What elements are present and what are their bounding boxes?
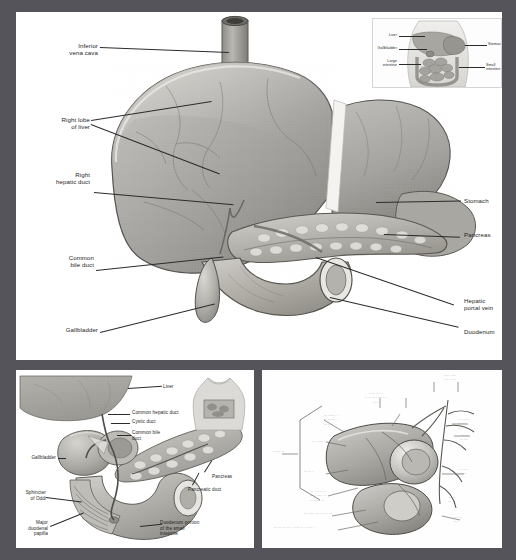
br-caption-top-center: ····· ···· · ····· ···· ···· ··· ···· · <box>348 392 404 405</box>
bl-label-cystic-duct: Cystic duct <box>132 419 192 425</box>
br-caption-mid-left-b: ······ · <box>304 470 338 474</box>
main-illustration-panel: Liver Gallbladder Large intestine Stomac… <box>16 12 502 360</box>
art-bl-liver <box>20 376 132 422</box>
br-caption-bottom-a: ········· ··· · ····· ··· <box>304 512 374 516</box>
label-right-hepatic-duct: Right hepatic duct <box>24 171 90 186</box>
bl-label-pancreas: Pancreas <box>212 474 254 480</box>
leader-inset-liver <box>399 36 425 37</box>
bl-label-major-duodenal-papilla: Major duodenal papilla <box>16 520 48 537</box>
inset-label-liver: Liver <box>373 33 397 37</box>
leader-bl-common-hepatic-duct <box>108 414 130 415</box>
leader-bl-cystic-duct <box>111 423 130 424</box>
label-gallbladder: Gallbladder <box>24 326 98 333</box>
bl-label-duodenum-portion: Duodenum portion of the small intestine <box>160 520 222 537</box>
br-caption-right-d: ······ ··· <box>448 496 478 505</box>
br-caption-right-a: · ········ ······ ···· <box>458 418 498 431</box>
leader-inset-small-intestine <box>459 67 485 68</box>
br-caption-bottom-b: ······ ······· · ······ ··· ·· ···· <box>274 526 366 530</box>
br-caption-top-right: ····· ····· ····· · ··· <box>420 374 480 383</box>
label-duodenum: Duodenum <box>464 328 502 335</box>
bl-label-common-hepatic-duct: Common hepatic duct <box>132 410 208 416</box>
leader-inset-stomach <box>465 45 487 46</box>
leader-inset-gallbladder <box>399 49 427 50</box>
anatomy-plate: Liver Gallbladder Large intestine Stomac… <box>0 0 516 560</box>
bl-label-liver: Liver <box>163 384 211 390</box>
bl-label-gallbladder: Gallbladder <box>18 455 56 461</box>
br-caption-upper-left: ·········· · ·········· · ····· · <box>324 414 366 427</box>
inset-label-small-intestine: Small intestine <box>486 63 502 72</box>
bl-label-pancreatic-duct: Pancreatic duct <box>188 487 250 493</box>
br-caption-right-e: ······· ···· <box>454 516 490 525</box>
art-br-cut-lumen <box>390 440 438 484</box>
label-inferior-vena-cava: Inferior vena cava <box>24 42 98 57</box>
orientation-inset: Liver Gallbladder Large intestine Stomac… <box>372 18 502 88</box>
leader-bl-gallbladder <box>58 458 66 459</box>
label-right-lobe-of-liver: Right lobe of liver <box>24 116 90 131</box>
br-caption-bracket: ·········· <box>262 450 284 454</box>
inset-label-large-intestine: Large intestine <box>373 59 397 68</box>
label-stomach: Stomach <box>464 197 502 204</box>
inset-label-gallbladder: Gallbladder <box>373 46 397 50</box>
label-pancreas: Pancreas <box>464 231 502 238</box>
br-caption-mid-left-a: ···· ······· <box>312 440 354 444</box>
br-caption-right-b: · ····· ······· <box>460 434 498 443</box>
br-caption-lower-left: ··· · ······· ····· ····· ·· ···········… <box>310 490 364 503</box>
br-caption-right-c: · ······· ······· <box>458 468 498 477</box>
bl-label-common-bile-duct: Common bile duct <box>132 430 184 441</box>
bl-label-sphincter-of-oddi: Sphincter of Oddi <box>16 490 46 501</box>
leader-inset-large-intestine <box>399 64 421 65</box>
label-common-bile-duct: Common bile duct <box>24 254 94 269</box>
leader-bl-common-bile-duct <box>117 435 131 436</box>
biliary-detail-panel: Liver Common hepatic duct Cystic duct Co… <box>16 370 254 548</box>
label-hepatic-portal-vein: Hepatic portal vein <box>464 297 502 312</box>
inset-label-stomach: Stomach <box>488 42 502 46</box>
dissection-line-drawing-panel: ····· ···· · ····· ···· ···· ··· ···· · … <box>262 370 502 548</box>
